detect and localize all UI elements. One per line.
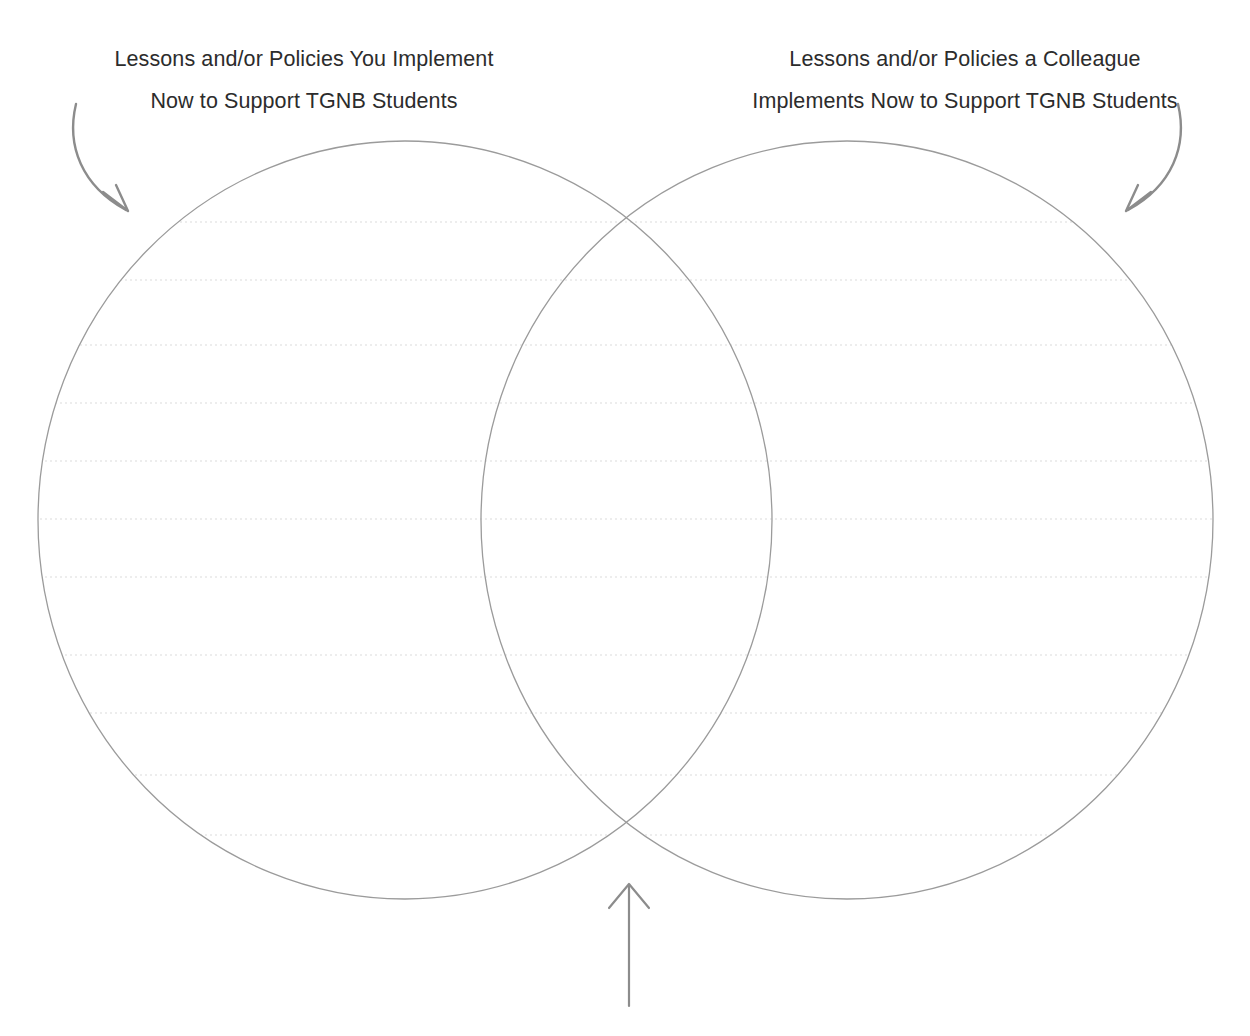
venn-diagram-worksheet: Lessons and/or Policies You Implement No…	[0, 0, 1250, 1036]
arrow-to-right-circle-icon	[1126, 104, 1181, 211]
arrow-to-overlap-icon	[609, 884, 649, 1006]
right-circle	[481, 141, 1213, 899]
arrow-to-left-circle-icon	[73, 104, 128, 211]
left-circle	[38, 141, 772, 899]
writing-rule-lines	[0, 222, 1250, 835]
venn-diagram-graphic	[0, 0, 1250, 1036]
